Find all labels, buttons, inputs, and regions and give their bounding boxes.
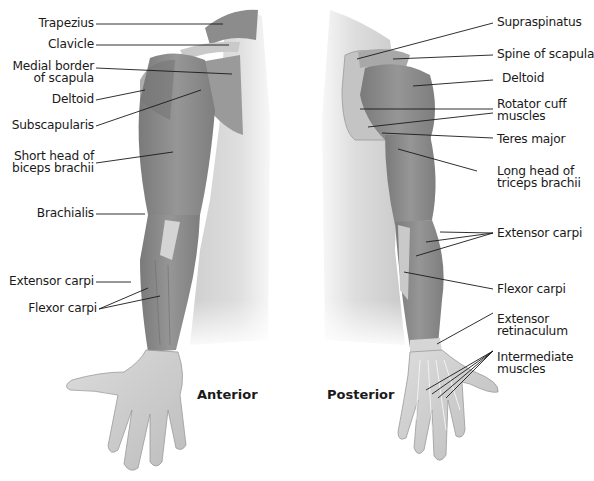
view-title-anterior: Anterior	[197, 387, 258, 402]
label-extensor-retinaculum: Extensorretinaculum	[497, 313, 568, 337]
label-brachialis: Brachialis	[37, 207, 94, 219]
label-teres-major: Teres major	[497, 133, 565, 145]
label-extensor-carpi-posterior: Extensor carpi	[497, 227, 582, 239]
label-clavicle: Clavicle	[48, 38, 94, 50]
label-deltoid-anterior: Deltoid	[52, 93, 94, 105]
label-flexor-carpi-posterior: Flexor carpi	[497, 283, 566, 295]
label-long-head-triceps-brachii: Long head oftriceps brachii	[497, 165, 581, 189]
label-subscapularis: Subscapularis	[12, 119, 94, 131]
label-rotator-cuff-muscles: Rotator cuffmuscles	[497, 98, 566, 122]
label-short-head-biceps-brachii: Short head ofbiceps brachii	[12, 150, 94, 174]
label-intermediate-muscles: Intermediatemuscles	[497, 351, 573, 375]
label-spine-of-scapula: Spine of scapula	[497, 48, 594, 60]
label-trapezius: Trapezius	[39, 17, 94, 29]
label-extensor-carpi-anterior: Extensor carpi	[9, 275, 94, 287]
label-deltoid-posterior: Deltoid	[502, 72, 544, 84]
label-flexor-carpi-anterior: Flexor carpi	[28, 302, 97, 314]
label-supraspinatus: Supraspinatus	[497, 16, 582, 28]
view-title-posterior: Posterior	[327, 387, 394, 402]
label-medial-border-of-scapula: Medial borderof scapula	[13, 60, 95, 84]
